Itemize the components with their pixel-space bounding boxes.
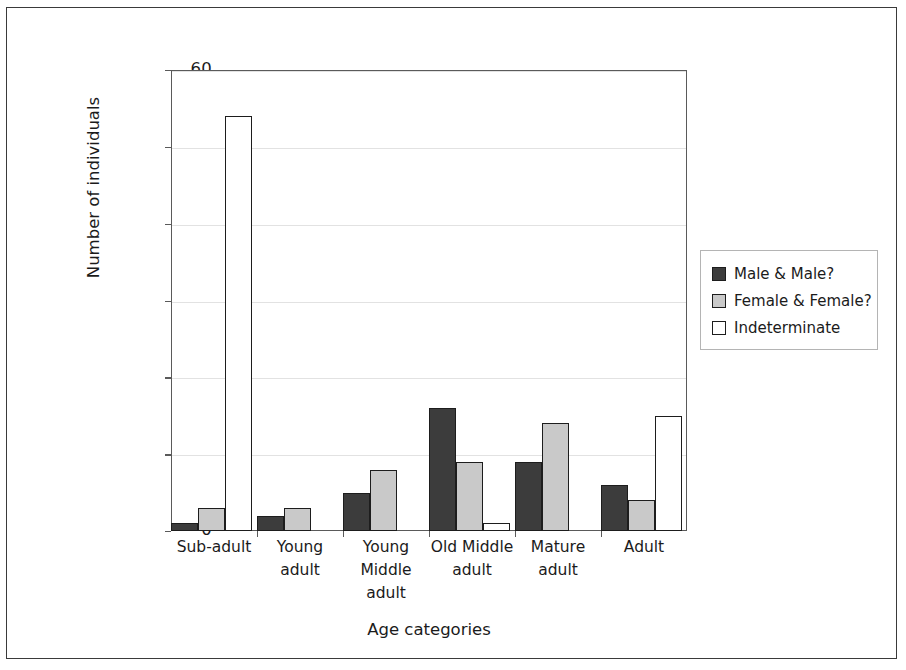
bar[interactable]	[370, 470, 397, 532]
bar[interactable]	[171, 523, 198, 531]
legend-label: Indeterminate	[734, 319, 840, 337]
bar[interactable]	[601, 485, 628, 531]
bar[interactable]	[198, 508, 225, 531]
bar[interactable]	[483, 523, 510, 531]
bar[interactable]	[257, 516, 284, 531]
bar-group	[171, 70, 252, 531]
bar[interactable]	[515, 462, 542, 531]
legend-label: Male & Male?	[734, 265, 834, 283]
legend-swatch-icon	[712, 294, 726, 308]
legend-item[interactable]: Indeterminate	[712, 314, 877, 341]
legend-item[interactable]: Female & Female?	[712, 287, 877, 314]
bar[interactable]	[429, 408, 456, 531]
bar[interactable]	[225, 116, 252, 531]
y-axis-title: Number of individuals	[84, 38, 103, 338]
bar[interactable]	[628, 500, 655, 531]
bar[interactable]	[655, 416, 682, 531]
x-axis-tick-labels: Sub-adultYoungadultYoungMiddleadultOld M…	[171, 536, 687, 616]
chart-page: 0102030405060 Number of individuals Sub-…	[0, 0, 906, 670]
bar[interactable]	[284, 508, 311, 531]
x-tick-label: Adult	[593, 536, 695, 559]
bar-groups-layer	[171, 70, 687, 531]
x-tick-label-line: Adult	[593, 536, 695, 559]
legend-swatch-icon	[712, 267, 726, 281]
y-tick-mark	[165, 531, 171, 532]
bar-group	[343, 70, 424, 531]
bar[interactable]	[456, 462, 483, 531]
bar-group	[257, 70, 338, 531]
legend-label: Female & Female?	[734, 292, 872, 310]
x-tick-label-line: adult	[335, 582, 437, 605]
chart-legend: Male & Male?Female & Female?Indeterminat…	[700, 250, 878, 350]
bar-group	[429, 70, 510, 531]
x-axis-title: Age categories	[171, 620, 687, 639]
bar-group	[601, 70, 682, 531]
legend-swatch-icon	[712, 321, 726, 335]
x-tick-label-line: adult	[507, 559, 609, 582]
bar[interactable]	[542, 423, 569, 531]
bar[interactable]	[343, 493, 370, 531]
legend-item[interactable]: Male & Male?	[712, 260, 877, 287]
bar-group	[515, 70, 596, 531]
